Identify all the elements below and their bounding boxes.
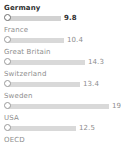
bar-row-label: France: [3, 26, 118, 35]
bar-row-track: 19.5: [3, 101, 118, 111]
bar-row-label: OECD: [3, 136, 118, 145]
bar-row-label: Germany: [3, 4, 118, 13]
bar-fill: [8, 60, 85, 65]
bar-fill-wrapper: [8, 38, 64, 43]
bar-fill: [8, 104, 109, 109]
bar-chart-row[interactable]: USA12.5: [3, 114, 118, 133]
bar-row-label: Sweden: [3, 92, 118, 101]
circle-marker-icon: [4, 124, 11, 131]
bar-chart-row[interactable]: Sweden19.5: [3, 92, 118, 111]
bar-chart-row[interactable]: OECD: [3, 136, 118, 145]
bar-fill-wrapper: [8, 82, 80, 87]
bar-row-label: USA: [3, 114, 118, 123]
bar-fill-wrapper: [8, 104, 109, 109]
bar-fill: [8, 16, 61, 21]
bar-fill: [8, 126, 76, 131]
bar-chart: Germany9.8France10.4Great Britain14.3Swi…: [0, 0, 121, 148]
bar-value-label: 12.5: [79, 123, 95, 133]
circle-marker-icon: [4, 80, 11, 87]
bar-row-label: Great Britain: [3, 48, 118, 57]
bar-value-label: 10.4: [67, 35, 83, 45]
bar-chart-row[interactable]: France10.4: [3, 26, 118, 45]
bar-chart-row[interactable]: Great Britain14.3: [3, 48, 118, 67]
bar-value-label: 14.3: [88, 57, 104, 67]
bar-row-track: 14.3: [3, 57, 118, 67]
circle-marker-icon: [4, 36, 11, 43]
bar-row-label: Switzerland: [3, 70, 118, 79]
bar-value-label: 9.8: [64, 13, 77, 23]
bar-fill-wrapper: [8, 16, 61, 21]
bar-value-label: 13.4: [83, 79, 99, 89]
bar-row-track: 13.4: [3, 79, 118, 89]
bar-fill: [8, 38, 64, 43]
bar-fill-wrapper: [8, 60, 85, 65]
bar-fill-wrapper: [8, 126, 76, 131]
bar-fill: [8, 82, 80, 87]
bar-row-track: 12.5: [3, 123, 118, 133]
bar-row-track: 9.8: [3, 13, 118, 23]
bar-chart-rows: Germany9.8France10.4Great Britain14.3Swi…: [3, 4, 118, 145]
circle-marker-icon: [4, 58, 11, 65]
bar-chart-row[interactable]: Germany9.8: [3, 4, 118, 23]
circle-marker-icon: [4, 102, 11, 109]
bar-row-track: 10.4: [3, 35, 118, 45]
bar-value-label: 19.5: [112, 101, 121, 111]
bar-chart-row[interactable]: Switzerland13.4: [3, 70, 118, 89]
circle-marker-icon: [4, 14, 11, 21]
